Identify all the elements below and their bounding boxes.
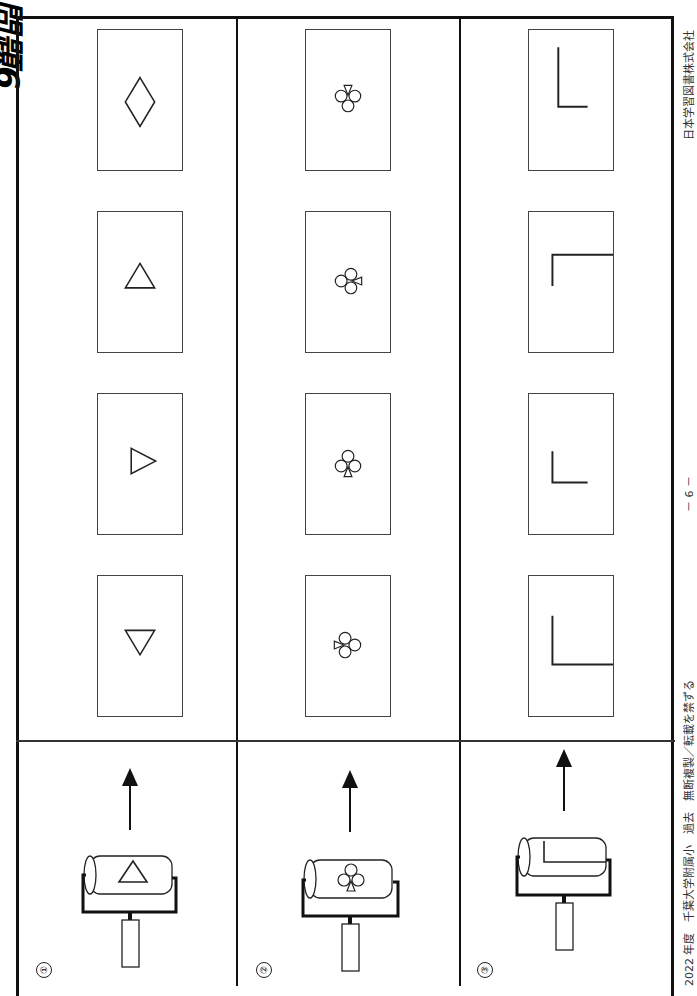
triangle-right-icon	[98, 394, 182, 534]
triangle-up-icon	[98, 212, 182, 352]
question-number-3: ③	[477, 962, 493, 978]
q1-option-triangle-up[interactable]	[97, 211, 183, 353]
q1-option-triangle-down[interactable]	[97, 575, 183, 717]
q2-paint-roller-illustration	[290, 760, 430, 980]
column-divider-1	[236, 16, 238, 986]
diamond-icon	[98, 30, 182, 170]
club-icon	[306, 30, 390, 170]
club-icon	[306, 212, 390, 352]
arrow-up-icon	[342, 770, 358, 832]
question-number-1: ①	[36, 962, 52, 978]
question-number-2: ②	[256, 962, 272, 978]
triangle-down-icon	[98, 576, 182, 716]
corner-shape-icon	[529, 212, 613, 352]
q3-option-corner-l-large[interactable]	[528, 29, 614, 171]
q1-option-diamond[interactable]	[97, 29, 183, 171]
arrow-up-icon	[556, 749, 572, 811]
page-number: － 6 －	[680, 476, 696, 512]
q2-option-club-upright[interactable]	[305, 393, 391, 535]
q3-option-corner-l-small[interactable]	[528, 393, 614, 535]
paint-roller-icon	[83, 856, 176, 967]
footer-copyright: 2022 年度 千葉大学附属小 過去 無断複製／転載を禁ずる	[680, 680, 696, 987]
q1-paint-roller-illustration	[60, 760, 200, 980]
paint-roller-icon	[303, 860, 398, 971]
column-divider-2	[459, 16, 461, 986]
corner-shape-icon	[529, 394, 613, 534]
arrow-up-icon	[122, 768, 138, 830]
q2-option-club-rotated-left[interactable]	[305, 575, 391, 717]
club-icon	[306, 576, 390, 716]
corner-shape-icon	[529, 576, 613, 716]
q3-paint-roller-illustration	[510, 745, 650, 965]
q1-option-triangle-right[interactable]	[97, 393, 183, 535]
row-divider	[16, 740, 675, 742]
q3-option-corner-bracket-top[interactable]	[528, 211, 614, 353]
club-icon	[306, 394, 390, 534]
paint-roller-icon	[517, 838, 610, 950]
q3-option-corner-bracket-wide[interactable]	[528, 575, 614, 717]
q2-option-club-rotated-right[interactable]	[305, 211, 391, 353]
q2-option-club-inverted[interactable]	[305, 29, 391, 171]
corner-shape-icon	[529, 30, 613, 170]
footer-publisher: 日本学習図書株式会社	[680, 30, 696, 140]
